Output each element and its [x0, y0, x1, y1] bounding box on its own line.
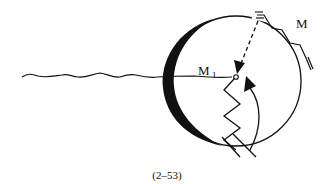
active-site-subscript: 1 [212, 70, 217, 80]
monomer-label: M [296, 16, 308, 31]
dashed-arrow-head [234, 60, 245, 74]
chain-end-double-bond-1 [222, 137, 240, 157]
insertion-arrow-head [244, 76, 256, 92]
monomer-double-bond-end [308, 57, 313, 69]
active-site-icon [234, 75, 239, 80]
figure-caption: (2–53) [152, 169, 182, 182]
active-site-label: M [198, 63, 210, 78]
dashed-approach-arrow [240, 21, 258, 66]
shaded-crescent [163, 19, 222, 146]
insertion-curved-arrow [250, 88, 259, 150]
polymerization-diagram: M 1 M (2–53) [0, 0, 331, 184]
